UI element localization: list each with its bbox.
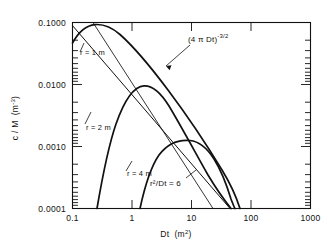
- y-tick-label-0: 0.1000: [38, 18, 66, 28]
- y-tick-label-1: 0.0100: [38, 80, 66, 90]
- label-r1m-text: r = 1 m: [80, 48, 105, 57]
- y-axis-title-unit-close: ): [10, 96, 20, 99]
- label-r4m-text: r = 4 m: [127, 169, 152, 178]
- annotation-envelope: (4 π Dt)-3/2: [188, 33, 229, 44]
- locus-leader-line: [186, 170, 196, 178]
- y-axis-title-main: c / M: [10, 120, 20, 140]
- label-r4m: r = 4 m: [126, 161, 152, 178]
- y-tick-label-3: 0.0001: [38, 204, 66, 214]
- x-tick-label-3: 100: [243, 213, 258, 223]
- y-axis-title: c / M(m-3): [10, 96, 21, 141]
- svg-text:Dt(m2): Dt(m2): [160, 229, 191, 240]
- x-axis-title-unit-open: (m: [174, 229, 185, 239]
- x-tick-label-1: 1: [129, 213, 134, 223]
- svg-text:c / M(m-3): c / M(m-3): [10, 96, 21, 141]
- y-axis-ticks-right: [301, 23, 311, 209]
- x-tick-label-0: 0.1: [66, 213, 79, 223]
- y-axis-title-unit-open: (m: [10, 105, 20, 116]
- x-tick-label-2: 10: [186, 213, 196, 223]
- annotation-locus: r²/Dt = 6: [150, 179, 181, 188]
- x-axis-title-unit-close: ): [189, 229, 192, 239]
- label-r2m-text: r = 2 m: [86, 123, 111, 132]
- annotation-envelope-base: (4 π Dt): [188, 35, 217, 44]
- y-tick-label-2: 0.0010: [38, 142, 66, 152]
- x-axis-title: Dt(m2): [160, 229, 191, 240]
- label-r2m: r = 2 m: [85, 112, 111, 132]
- plot-frame: [73, 23, 311, 209]
- x-tick-label-4: 1000: [300, 213, 320, 223]
- label-r1m: r = 1 m: [80, 43, 105, 57]
- curve-r2m: [97, 86, 231, 209]
- annotation-envelope-exponent: -3/2: [217, 33, 229, 39]
- envelope-leader-line: [166, 45, 190, 70]
- chart-svg: 0.1000 0.0100 0.0010 0.0001 0.1 1 10 100…: [0, 0, 328, 245]
- x-axis-title-main: Dt: [160, 229, 169, 239]
- chart-figure: 0.1000 0.0100 0.0010 0.0001 0.1 1 10 100…: [0, 0, 328, 245]
